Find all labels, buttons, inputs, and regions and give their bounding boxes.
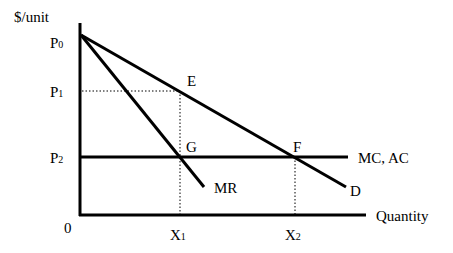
x2-label: X2	[285, 227, 301, 243]
demand-label: D	[350, 183, 361, 199]
y-axis-title: $/unit	[14, 9, 50, 25]
x-axis-title: Quantity	[376, 208, 429, 224]
x1-label: X1	[170, 227, 186, 243]
p1-label: P1	[50, 84, 63, 100]
mc-ac-label: MC, AC	[358, 150, 409, 166]
demand-curve	[81, 35, 346, 187]
mr-curve	[81, 35, 204, 187]
monopoly-diagram: $/unit P0 P1 P2 0 X1 X2 Quantity E G F M…	[0, 0, 453, 253]
p0-label: P0	[50, 35, 63, 51]
point-g-label: G	[186, 139, 197, 155]
mr-label: MR	[214, 180, 237, 196]
p2-label: P2	[50, 150, 63, 166]
point-e-label: E	[187, 73, 196, 89]
origin-label: 0	[64, 220, 72, 236]
point-f-label: F	[293, 139, 301, 155]
